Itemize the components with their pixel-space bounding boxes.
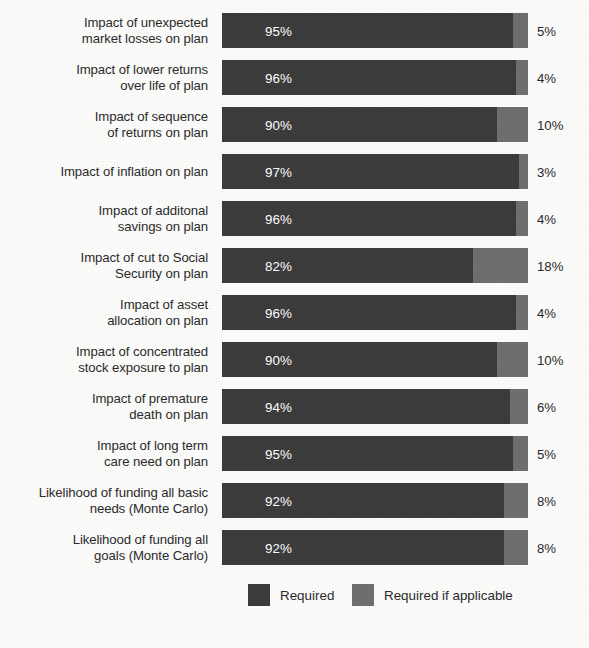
bar-segment-required-if-applicable[interactable]	[504, 530, 528, 565]
category-label: Impact of asset allocation on plan	[0, 296, 208, 329]
chart-row: Impact of additonal savings on plan96%4%	[0, 201, 589, 236]
legend-item-required-if-applicable[interactable]: Required if applicable	[352, 584, 513, 606]
stacked-bar[interactable]: 90%	[222, 342, 528, 377]
bar-segment-required[interactable]: 96%	[222, 295, 516, 330]
category-label: Impact of long term care need on plan	[0, 437, 208, 470]
bar-segment-required[interactable]: 96%	[222, 60, 516, 95]
category-label: Impact of additonal savings on plan	[0, 202, 208, 235]
chart-row: Impact of inflation on plan97%3%	[0, 154, 589, 189]
bar-value-label: 82%	[265, 258, 292, 273]
bar-segment-required-if-applicable[interactable]	[513, 13, 528, 48]
category-label: Impact of inflation on plan	[0, 163, 208, 180]
bar-segment-required[interactable]: 95%	[222, 436, 513, 471]
bar-secondary-value-label: 8%	[537, 540, 556, 555]
category-label: Impact of lower returns over life of pla…	[0, 61, 208, 94]
bar-segment-required-if-applicable[interactable]	[516, 295, 528, 330]
bar-secondary-value-label: 10%	[537, 117, 563, 132]
bar-segment-required[interactable]: 90%	[222, 342, 497, 377]
stacked-bar[interactable]: 95%	[222, 436, 528, 471]
bar-segment-required[interactable]: 92%	[222, 530, 504, 565]
bar-value-label: 96%	[265, 70, 292, 85]
stacked-bar[interactable]: 92%	[222, 483, 528, 518]
bar-value-label: 90%	[265, 352, 292, 367]
chart-legend: Required Required if applicable	[0, 584, 589, 612]
stacked-bar[interactable]: 97%	[222, 154, 528, 189]
bar-secondary-value-label: 10%	[537, 352, 563, 367]
bar-secondary-value-label: 8%	[537, 493, 556, 508]
bar-segment-required[interactable]: 90%	[222, 107, 497, 142]
bar-secondary-value-label: 6%	[537, 399, 556, 414]
bar-segment-required-if-applicable[interactable]	[513, 436, 528, 471]
bar-secondary-value-label: 18%	[537, 258, 563, 273]
bar-secondary-value-label: 5%	[537, 446, 556, 461]
bar-segment-required-if-applicable[interactable]	[473, 248, 528, 283]
bar-value-label: 97%	[265, 164, 292, 179]
chart-row: Likelihood of funding all goals (Monte C…	[0, 530, 589, 565]
bar-value-label: 94%	[265, 399, 292, 414]
chart-row: Impact of lower returns over life of pla…	[0, 60, 589, 95]
chart-row: Impact of premature death on plan94%6%	[0, 389, 589, 424]
chart-row: Likelihood of funding all basic needs (M…	[0, 483, 589, 518]
bar-secondary-value-label: 5%	[537, 23, 556, 38]
stacked-bar-chart: Impact of unexpected market losses on pl…	[0, 0, 589, 648]
stacked-bar[interactable]: 94%	[222, 389, 528, 424]
bar-segment-required-if-applicable[interactable]	[516, 201, 528, 236]
chart-rows: Impact of unexpected market losses on pl…	[0, 13, 589, 577]
legend-swatch-required-icon	[248, 584, 270, 606]
bar-value-label: 90%	[265, 117, 292, 132]
legend-swatch-required-if-applicable-icon	[352, 584, 374, 606]
bar-segment-required[interactable]: 96%	[222, 201, 516, 236]
legend-item-required[interactable]: Required	[248, 584, 334, 606]
category-label: Impact of premature death on plan	[0, 390, 208, 423]
bar-value-label: 92%	[265, 493, 292, 508]
bar-secondary-value-label: 3%	[537, 164, 556, 179]
category-label: Likelihood of funding all goals (Monte C…	[0, 531, 208, 564]
bar-segment-required-if-applicable[interactable]	[516, 60, 528, 95]
bar-secondary-value-label: 4%	[537, 305, 556, 320]
chart-row: Impact of concentrated stock exposure to…	[0, 342, 589, 377]
bar-segment-required-if-applicable[interactable]	[497, 342, 528, 377]
chart-row: Impact of sequence of returns on plan90%…	[0, 107, 589, 142]
category-label: Impact of concentrated stock exposure to…	[0, 343, 208, 376]
legend-label-required-if-applicable: Required if applicable	[384, 588, 513, 603]
bar-value-label: 95%	[265, 446, 292, 461]
stacked-bar[interactable]: 92%	[222, 530, 528, 565]
bar-secondary-value-label: 4%	[537, 70, 556, 85]
bar-value-label: 96%	[265, 305, 292, 320]
category-label: Impact of cut to Social Security on plan	[0, 249, 208, 282]
bar-value-label: 95%	[265, 23, 292, 38]
stacked-bar[interactable]: 90%	[222, 107, 528, 142]
bar-segment-required-if-applicable[interactable]	[504, 483, 528, 518]
category-label: Likelihood of funding all basic needs (M…	[0, 484, 208, 517]
chart-row: Impact of asset allocation on plan96%4%	[0, 295, 589, 330]
bar-segment-required[interactable]: 97%	[222, 154, 519, 189]
bar-segment-required-if-applicable[interactable]	[497, 107, 528, 142]
bar-segment-required-if-applicable[interactable]	[519, 154, 528, 189]
bar-segment-required[interactable]: 92%	[222, 483, 504, 518]
stacked-bar[interactable]: 96%	[222, 295, 528, 330]
stacked-bar[interactable]: 96%	[222, 201, 528, 236]
chart-row: Impact of unexpected market losses on pl…	[0, 13, 589, 48]
bar-segment-required[interactable]: 95%	[222, 13, 513, 48]
stacked-bar[interactable]: 82%	[222, 248, 528, 283]
chart-row: Impact of long term care need on plan95%…	[0, 436, 589, 471]
chart-row: Impact of cut to Social Security on plan…	[0, 248, 589, 283]
bar-secondary-value-label: 4%	[537, 211, 556, 226]
bar-segment-required[interactable]: 94%	[222, 389, 510, 424]
category-label: Impact of sequence of returns on plan	[0, 108, 208, 141]
legend-label-required: Required	[280, 588, 334, 603]
bar-value-label: 96%	[265, 211, 292, 226]
bar-segment-required-if-applicable[interactable]	[510, 389, 528, 424]
category-label: Impact of unexpected market losses on pl…	[0, 14, 208, 47]
stacked-bar[interactable]: 96%	[222, 60, 528, 95]
stacked-bar[interactable]: 95%	[222, 13, 528, 48]
bar-segment-required[interactable]: 82%	[222, 248, 473, 283]
bar-value-label: 92%	[265, 540, 292, 555]
